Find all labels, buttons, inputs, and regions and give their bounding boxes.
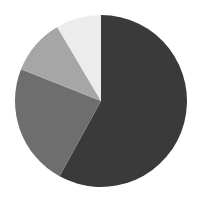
- pie-chart: [0, 0, 200, 203]
